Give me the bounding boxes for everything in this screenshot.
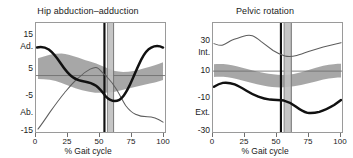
ytick-label-15: 15 xyxy=(2,30,33,39)
ytick-label-5: 5 xyxy=(2,64,33,73)
xtick-label-50: 50 xyxy=(87,137,111,146)
panel-hip-abduction-adduction: Hip abduction–adduction 15 Ad. 5 -5 Ab. … xyxy=(0,0,176,158)
plot-area-pelvis xyxy=(212,22,343,133)
axis-direction-label-abduction: Ab. xyxy=(2,108,33,117)
xtick-label-75: 75 xyxy=(296,137,320,146)
xtick-label-0: 0 xyxy=(23,137,47,146)
ytick-label-neg15: -15 xyxy=(2,126,33,135)
ytick-label-10: 10 xyxy=(179,66,210,75)
plot-canvas-pelvis xyxy=(213,23,342,132)
xtick-label-100: 100 xyxy=(151,137,175,146)
xtick-label-100: 100 xyxy=(328,137,352,146)
contralateral-curve xyxy=(214,35,341,56)
xtick-label-25: 25 xyxy=(55,137,79,146)
plot-area-hip xyxy=(35,22,166,133)
normal-toe-off-band xyxy=(107,23,113,132)
axis-direction-label-adduction: Ad. xyxy=(2,42,33,51)
ytick-label-neg10: -10 xyxy=(179,93,210,102)
ytick-label-neg30: -30 xyxy=(179,126,210,135)
axis-direction-label-external: Ext. xyxy=(179,108,210,117)
plot-canvas-hip xyxy=(36,23,165,132)
xaxis-title: % Gait cycle xyxy=(177,146,353,156)
xtick-label-0: 0 xyxy=(200,137,224,146)
ytick-label-neg5: -5 xyxy=(2,91,33,100)
panel-title: Pelvic rotation xyxy=(177,6,353,16)
normal-toe-off-band xyxy=(284,23,292,132)
xtick-label-25: 25 xyxy=(232,137,256,146)
gait-analysis-figure: Hip abduction–adduction 15 Ad. 5 -5 Ab. … xyxy=(0,0,353,158)
xtick-label-75: 75 xyxy=(119,137,143,146)
panel-title: Hip abduction–adduction xyxy=(0,6,176,16)
axis-direction-label-internal: Int. xyxy=(179,48,210,57)
xtick-label-50: 50 xyxy=(264,137,288,146)
xaxis-title: % Gait cycle xyxy=(0,146,176,156)
ytick-label-30: 30 xyxy=(179,36,210,45)
panel-pelvic-rotation: Pelvic rotation 30 Int. 10 -10 Ext. -30 xyxy=(177,0,353,158)
